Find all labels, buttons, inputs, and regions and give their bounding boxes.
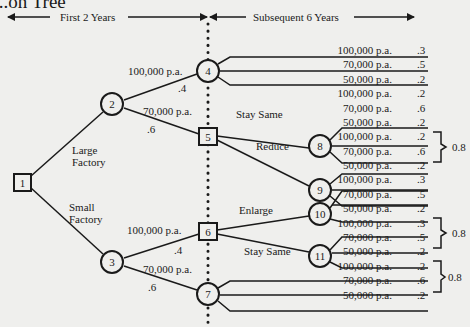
chance-node-7: 7: [197, 283, 219, 305]
outcome-value: 70,000 p.a.: [343, 231, 392, 243]
chance-node-10: 10: [309, 203, 331, 225]
first-period-label: First 2 Years: [60, 11, 115, 23]
bracket-icon: [433, 132, 446, 162]
svg-text:1: 1: [20, 177, 26, 189]
decision-node-5: 5: [199, 128, 217, 145]
outcome-value: 100,000 p.a.: [338, 260, 393, 272]
outcome-prob: .2: [417, 260, 425, 272]
outcome-value: 100,000 p.a.: [338, 173, 393, 185]
outcome-value: 70,000 p.a.: [343, 274, 392, 286]
outcome-value: 100,000 p.a.: [338, 87, 393, 99]
chance-node-11: 11: [309, 245, 331, 267]
outcome-prob: .3: [417, 44, 426, 56]
demand-high-prob: .4: [174, 244, 183, 256]
chance-node-4: 4: [197, 60, 219, 82]
demand-high-label: 100,000 p.a.: [128, 65, 183, 77]
svg-text:10: 10: [315, 208, 327, 220]
outcome-prob: .2: [417, 159, 425, 171]
outcome-prob: .2: [417, 116, 425, 128]
svg-text:6: 6: [205, 226, 211, 238]
outcome-prob: .2: [417, 245, 425, 257]
svg-text:9: 9: [317, 184, 323, 196]
outcome-value: 50,000 p.a.: [343, 116, 392, 128]
demand-medium-prob: .6: [147, 123, 156, 135]
outcome-value: 70,000 p.a.: [343, 58, 392, 70]
outcome-value: 70,000 p.a.: [343, 102, 392, 114]
chance-node-2: 2: [101, 93, 123, 115]
bracket-prob-label: 0.8: [452, 227, 466, 239]
demand-high-prob: .4: [178, 82, 187, 94]
svg-text:8: 8: [317, 140, 323, 152]
probability-brackets: [433, 132, 446, 292]
outcome-prob: .5: [417, 188, 426, 200]
decision-tree-diagram: ...on Tree First 2 Years Subsequent 6 Ye…: [0, 0, 470, 327]
small-factory-label: Small: [69, 201, 95, 213]
outcome-prob: .2: [417, 202, 425, 214]
outcome-value: 50,000 p.a.: [343, 73, 392, 85]
stay-same-label: Stay Same: [236, 108, 283, 120]
outcome-value: 100,000 p.a.: [338, 217, 393, 229]
demand-high-label: 100,000 p.a.: [127, 224, 182, 236]
demand-medium-label: 70,000 p.a.: [143, 105, 192, 117]
outcome-value: 70,000 p.a.: [343, 188, 392, 200]
second-period-label: Subsequent 6 Years: [253, 11, 339, 23]
outcome-prob: .3: [417, 217, 426, 229]
svg-text:3: 3: [109, 256, 115, 268]
outcome-prob: .6: [417, 274, 426, 286]
outcome-value: 100,000 p.a.: [338, 130, 393, 142]
outcome-labels: 100,000 p.a. .3 70,000 p.a. .5 50,000 p.…: [338, 44, 426, 301]
outcome-value: 50,000 p.a.: [343, 159, 392, 171]
diagram-title: ...on Tree: [0, 0, 66, 12]
reduce-label: Reduce: [256, 140, 289, 152]
bracket-prob-label: 0.8: [448, 271, 462, 283]
outcome-prob: .6: [417, 145, 426, 157]
decision-node-6: 6: [199, 223, 217, 240]
bracket-icon: [433, 261, 445, 292]
outcome-prob: .3: [417, 173, 426, 185]
svg-text:11: 11: [315, 250, 326, 262]
svg-text:2: 2: [109, 98, 115, 110]
outcome-value: 100,000 p.a.: [338, 44, 393, 56]
demand-medium-prob: .6: [148, 281, 157, 293]
bracket-icon: [433, 218, 446, 248]
bracket-prob-label: 0.8: [452, 141, 466, 153]
outcome-value: 70,000 p.a.: [343, 145, 392, 157]
large-factory-label: Large: [72, 144, 98, 156]
chance-node-3: 3: [101, 251, 123, 273]
stay-same-label: Stay Same: [244, 245, 291, 257]
outcome-prob: .2: [417, 73, 425, 85]
outcome-prob: .2: [417, 130, 425, 142]
outcome-value: 50,000 p.a.: [343, 245, 392, 257]
outcome-prob: .5: [417, 58, 426, 70]
outcome-prob: .2: [417, 289, 425, 301]
enlarge-label: Enlarge: [239, 204, 273, 216]
small-factory-label: Factory: [69, 213, 103, 225]
svg-text:5: 5: [205, 131, 211, 143]
outcome-prob: .5: [417, 231, 426, 243]
outcome-value: 50,000 p.a.: [343, 289, 392, 301]
outcome-value: 50,000 p.a.: [343, 202, 392, 214]
large-factory-label: Factory: [72, 156, 106, 168]
timeline-header: First 2 Years Subsequent 6 Years: [8, 11, 414, 23]
demand-medium-label: 70,000 p.a.: [143, 263, 192, 275]
svg-text:4: 4: [205, 65, 211, 77]
svg-text:7: 7: [205, 288, 211, 300]
decision-node-1: 1: [14, 174, 31, 191]
chance-node-9: 9: [309, 179, 331, 201]
outcome-prob: .2: [417, 87, 425, 99]
outcome-prob: .6: [417, 102, 426, 114]
chance-node-8: 8: [309, 135, 331, 157]
